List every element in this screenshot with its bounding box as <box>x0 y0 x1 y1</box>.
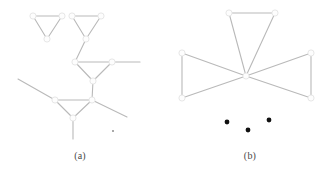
graph-edge <box>246 13 275 76</box>
graph-edge <box>86 16 101 39</box>
graph-edge <box>73 100 92 118</box>
graph-edge <box>229 13 246 76</box>
graph-vertex <box>52 97 58 103</box>
graph-vertex <box>72 59 78 65</box>
graph-vertex <box>30 13 36 19</box>
graph-edge <box>47 16 62 39</box>
graph-edge <box>75 62 93 81</box>
graph-vertex <box>89 97 95 103</box>
graph-vertex <box>179 50 185 56</box>
panel-a-caption: (a) <box>60 150 100 161</box>
graph-vertex <box>69 13 75 19</box>
panel-a-graph <box>18 13 140 139</box>
graph-vertex <box>90 78 96 84</box>
graph-vertex <box>243 73 249 79</box>
ellipsis-dot <box>112 130 113 131</box>
graph-edge <box>55 100 73 118</box>
graph-figure-canvas <box>0 0 330 174</box>
panel-b-graph <box>179 10 314 132</box>
ellipsis-dot <box>246 128 251 133</box>
graph-vertex <box>98 13 104 19</box>
graph-vertex <box>308 95 314 101</box>
ellipsis-dot <box>267 118 272 123</box>
graph-vertex <box>109 59 115 65</box>
graph-vertex <box>308 50 314 56</box>
graph-edge <box>75 39 86 62</box>
graph-edge <box>246 76 311 98</box>
graph-edge <box>72 16 86 39</box>
graph-vertex <box>59 13 65 19</box>
graph-vertex <box>272 10 278 16</box>
graph-edge <box>182 76 246 98</box>
graph-edge <box>18 79 55 100</box>
graph-vertex <box>226 10 232 16</box>
ellipsis-dot <box>225 120 230 125</box>
graph-vertex <box>83 36 89 42</box>
graph-vertex <box>179 95 185 101</box>
graph-edge <box>246 53 311 76</box>
panel-b-caption: (b) <box>230 150 270 161</box>
graph-edge <box>92 100 127 117</box>
graph-edge <box>93 62 112 81</box>
graph-vertex <box>44 36 50 42</box>
figure-container: (a) (b) <box>0 0 330 174</box>
graph-edge <box>182 53 246 76</box>
graph-edge <box>33 16 47 39</box>
graph-vertex <box>70 115 76 121</box>
